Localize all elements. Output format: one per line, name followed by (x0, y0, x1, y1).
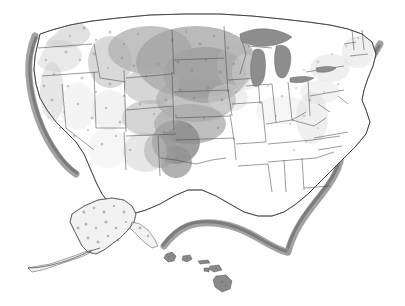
alaska-aleutian-chain (28, 250, 92, 272)
shade-wyoming (124, 68, 180, 104)
map-canvas (0, 0, 405, 306)
alaska-mainland (70, 198, 136, 254)
hawaii-island-hawaii (213, 275, 232, 292)
alaska-southeast-panhandle (130, 222, 158, 248)
shade-arizona (88, 128, 128, 168)
shade-new-mexico (123, 132, 167, 172)
hawaii-island-lanai (204, 268, 209, 272)
us-thematic-map-figure (0, 0, 405, 306)
shade-colorado (122, 100, 178, 136)
shade-sierra-nevada (40, 62, 64, 122)
shade-idaho (88, 36, 132, 88)
shade-utah (92, 90, 128, 130)
hawaii-inset (164, 252, 232, 292)
shade-new-england (342, 36, 374, 68)
